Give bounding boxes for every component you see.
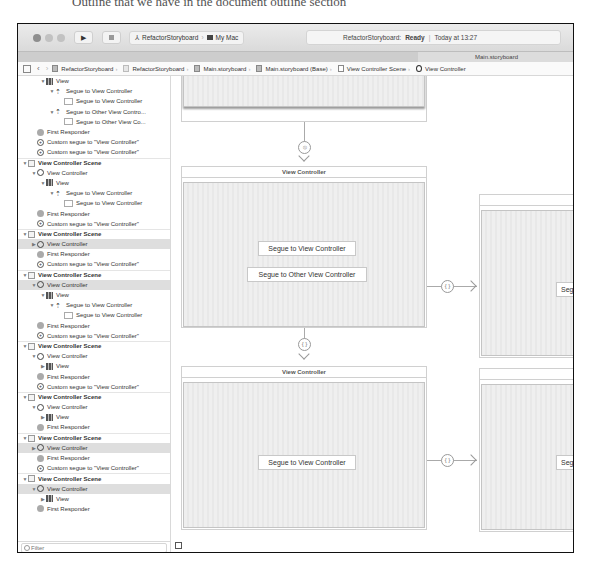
breadcrumb-label: View Controller: [425, 66, 466, 72]
outline-row[interactable]: ▶View: [18, 412, 170, 422]
outline-row[interactable]: +Custom segue to "View Controller": [18, 137, 170, 147]
outline-row[interactable]: +Custom segue to "View Controller": [18, 331, 170, 341]
view-controller-body[interactable]: Segue to View Controller: [183, 382, 425, 528]
project-icon: [52, 65, 58, 72]
segue-to-view-controller-button[interactable]: Segue to View Controller: [258, 241, 356, 256]
segue-arrow-right-icon: [465, 454, 476, 465]
outline-scene-row[interactable]: ▼View Controller Scene: [18, 392, 170, 402]
tab-bar: Main.storyboard: [18, 51, 573, 62]
outline-row-label: Segue to View Controller: [66, 302, 132, 308]
outline-row[interactable]: First Responder: [18, 321, 170, 331]
outline-row[interactable]: First Responder: [18, 422, 170, 432]
outline-row[interactable]: +Custom segue to "View Controller": [18, 463, 170, 473]
zoom-window-button[interactable]: [57, 34, 65, 42]
first-responder-icon: [37, 251, 44, 258]
outline-row[interactable]: ▼View: [18, 178, 170, 188]
outline-row-label: Custom segue to "View Controller": [47, 384, 139, 390]
outline-row[interactable]: ▼⇡Segue to Other View Contro...: [18, 107, 170, 117]
view-controller-body[interactable]: [183, 76, 425, 107]
play-icon: ▶: [81, 34, 86, 42]
storyboard-canvas[interactable]: ⦸ View Controller Segue to View Controll…: [171, 76, 574, 553]
outline-row-label: First Responder: [47, 323, 90, 329]
outline-row[interactable]: +Custom segue to "View Controller": [18, 382, 170, 392]
first-responder-icon: [37, 373, 44, 380]
outline-row-label: View Controller Scene: [38, 435, 101, 441]
outline-scene-row[interactable]: ▼View Controller Scene: [18, 158, 170, 168]
document-outline[interactable]: ▼View▼⇡Segue to View ControllerSegue to …: [18, 76, 171, 541]
scene-view-controller-2[interactable]: View Controller Segue to View Controller: [181, 366, 427, 530]
breadcrumb-group[interactable]: RefactorStoryboard›: [119, 65, 190, 72]
breadcrumb-storyboard[interactable]: Main.storyboard›: [190, 65, 252, 72]
back-button[interactable]: ‹: [37, 64, 40, 73]
segue-show-icon[interactable]: { }: [441, 280, 454, 293]
outline-row[interactable]: ▼View: [18, 290, 170, 300]
outline-row[interactable]: ▼View Controller: [18, 280, 170, 290]
view-controller-body[interactable]: Segue to View Controller: [481, 384, 574, 530]
outline-row-label: Segue to View Controller: [66, 88, 132, 94]
close-window-button[interactable]: [33, 34, 41, 42]
outline-row[interactable]: First Responder: [18, 453, 170, 463]
outline-row[interactable]: ▼View Controller: [18, 402, 170, 412]
breadcrumb-project[interactable]: RefactorStoryboard›: [48, 65, 119, 72]
scheme-selector[interactable]: ⅄ RefactorStoryboard › My Mac: [129, 31, 244, 45]
scene-view-controller-1[interactable]: View Controller Segue to View Controller…: [181, 166, 427, 328]
outline-scene-row[interactable]: ▼View Controller Scene: [18, 433, 170, 443]
outline-row[interactable]: First Responder: [18, 208, 170, 218]
outline-row[interactable]: Segue to View Controller: [18, 96, 170, 106]
outline-row[interactable]: +Custom segue to "View Controller": [18, 147, 170, 157]
toolbar: ▶ ⅄ RefactorStoryboard › My Mac Refactor…: [18, 24, 573, 51]
toggle-outline-icon[interactable]: [175, 542, 182, 549]
custom-segue-icon: +: [37, 149, 44, 156]
outline-row[interactable]: ▶View Controller: [18, 239, 170, 249]
scene-icon: [28, 435, 35, 442]
outline-row[interactable]: +Custom segue to "View Controller": [18, 259, 170, 269]
storyboard-file-icon: [194, 65, 200, 72]
xcode-window: ▶ ⅄ RefactorStoryboard › My Mac Refactor…: [17, 23, 574, 553]
scene-right-partial-1[interactable]: Segue to View Controller: [479, 194, 574, 358]
minimize-window-button[interactable]: [45, 34, 53, 42]
segue-to-view-controller-button[interactable]: Segue to View Controller: [556, 282, 574, 297]
outline-row[interactable]: First Responder: [18, 127, 170, 137]
outline-row[interactable]: First Responder: [18, 249, 170, 259]
run-button[interactable]: ▶: [74, 31, 93, 44]
filter-input[interactable]: [21, 543, 167, 553]
segue-to-other-view-controller-button[interactable]: Segue to Other View Controller: [247, 267, 367, 282]
outline-row[interactable]: ▼View Controller: [18, 351, 170, 361]
view-controller-body[interactable]: Segue to View Controller Segue to Other …: [183, 182, 425, 327]
outline-row[interactable]: ▼View Controller: [18, 168, 170, 178]
outline-filter-bar: [18, 541, 171, 553]
breadcrumb-view-controller[interactable]: View Controller: [412, 65, 466, 72]
segue-to-view-controller-button[interactable]: Segue to View Controller: [258, 455, 356, 470]
outline-row[interactable]: Segue to Other View Co...: [18, 117, 170, 127]
outline-row[interactable]: +Custom segue to "View Controller": [18, 219, 170, 229]
outline-row[interactable]: ▶View Controller: [18, 443, 170, 453]
segue-to-view-controller-button[interactable]: Segue to View Controller: [556, 455, 574, 470]
outline-row[interactable]: ▶View: [18, 361, 170, 371]
outline-row[interactable]: ▼⇡Segue to View Controller: [18, 86, 170, 96]
outline-row[interactable]: ▼View: [18, 76, 170, 86]
outline-scene-row[interactable]: ▼View Controller Scene: [18, 229, 170, 239]
breadcrumb-scene[interactable]: View Controller Scene›: [334, 65, 412, 72]
outline-row[interactable]: ▶View: [18, 494, 170, 504]
outline-scene-row[interactable]: ▼View Controller Scene: [18, 341, 170, 351]
outline-row[interactable]: ▼⇡Segue to View Controller: [18, 188, 170, 198]
view-controller-body[interactable]: Segue to View Controller: [481, 210, 574, 356]
breadcrumb-storyboard-base[interactable]: Main.storyboard (Base)›: [252, 65, 333, 72]
segue-show-icon[interactable]: { }: [441, 454, 454, 467]
scene-right-partial-2[interactable]: Segue to View Controller: [479, 368, 574, 532]
outline-scene-row[interactable]: ▼View Controller Scene: [18, 270, 170, 280]
outline-row[interactable]: Segue to View Controller: [18, 198, 170, 208]
segue-icon: ⇡: [55, 190, 63, 197]
scene-top-partial[interactable]: [181, 76, 427, 122]
outline-row[interactable]: First Responder: [18, 504, 170, 514]
outline-row-label: View Controller: [47, 353, 88, 359]
related-items-icon[interactable]: [23, 65, 31, 73]
outline-row-label: View Controller: [47, 282, 88, 288]
outline-row[interactable]: ▼View Controller: [18, 484, 170, 494]
outline-row[interactable]: ▼⇡Segue to View Controller: [18, 300, 170, 310]
outline-row[interactable]: Segue to View Controller: [18, 310, 170, 320]
outline-row[interactable]: First Responder: [18, 371, 170, 381]
stop-button[interactable]: [102, 31, 121, 44]
outline-rows: ▼View▼⇡Segue to View ControllerSegue to …: [18, 76, 170, 514]
outline-scene-row[interactable]: ▼View Controller Scene: [18, 473, 170, 483]
